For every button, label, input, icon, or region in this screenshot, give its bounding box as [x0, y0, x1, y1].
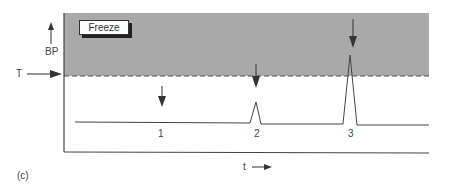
bp-label: BP	[45, 47, 58, 57]
event-1-label: 1	[158, 129, 164, 139]
time-label: t	[243, 162, 246, 172]
event-3-label: 3	[348, 129, 354, 139]
threshold-label: T	[16, 69, 22, 79]
freeze-label: Freeze	[79, 20, 129, 35]
x-axis	[64, 152, 429, 153]
event-2-label: 2	[254, 129, 260, 139]
bp-diagram	[0, 0, 451, 186]
event-1-arrow-icon	[158, 86, 166, 107]
panel-label: (c)	[17, 171, 29, 181]
